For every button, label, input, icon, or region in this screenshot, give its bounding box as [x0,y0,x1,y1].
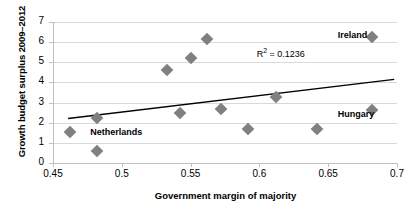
y-tick [49,103,53,104]
gridline [53,42,397,43]
x-tick [328,163,329,167]
y-tick-label: 1 [22,136,44,147]
x-tick-label: 0.6 [239,168,279,179]
x-tick [191,163,192,167]
gridline [53,82,397,83]
y-tick [49,22,53,23]
y-tick-label: 5 [22,55,44,66]
scatter-chart: Growth budget surplus 2009–2012 01234567… [0,0,417,217]
x-axis-line [53,163,398,164]
y-tick-label: 2 [22,116,44,127]
y-axis-line [53,22,54,164]
y-tick-label: 7 [22,15,44,26]
plot-area [53,22,397,163]
x-tick [122,163,123,167]
x-tick-label: 0.45 [33,168,73,179]
y-tick [49,123,53,124]
hungary-label: Hungary [338,109,375,119]
gridline [53,62,397,63]
gridline [53,123,397,124]
y-tick [49,62,53,63]
x-tick [259,163,260,167]
y-tick [49,82,53,83]
y-tick [49,42,53,43]
gridline [53,143,397,144]
x-tick-label: 0.5 [102,168,142,179]
y-tick-label: 3 [22,96,44,107]
y-tick-label: 6 [22,35,44,46]
gridline [53,22,397,23]
r-squared: R2 = 0.1236 [257,47,305,59]
x-tick [53,163,54,167]
x-tick-label: 0.55 [171,168,211,179]
ireland-label: Ireland [338,30,368,40]
x-tick [397,163,398,167]
x-tick-label: 0.7 [377,168,417,179]
y-tick-label: 4 [22,75,44,86]
x-axis-title: Government margin of majority [53,190,398,201]
y-tick [49,143,53,144]
x-tick-label: 0.65 [308,168,348,179]
gridline [53,103,397,104]
netherlands-label: Netherlands [90,127,142,137]
y-tick-label: 0 [22,156,44,167]
